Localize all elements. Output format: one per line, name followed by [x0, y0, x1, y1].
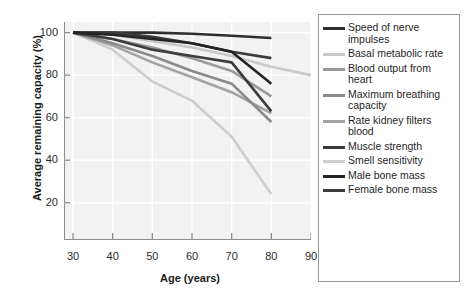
legend-label: Rate kidney filters blood	[348, 115, 455, 138]
legend-label: Male bone mass	[348, 170, 425, 182]
legend-swatch-icon	[323, 189, 345, 192]
legend-label: Blood output from heart	[348, 63, 455, 86]
legend-label: Female bone mass	[348, 184, 437, 196]
legend-item[interactable]: Blood output from heart	[323, 63, 455, 86]
legend-label: Speed of nerve impulses	[348, 22, 455, 45]
legend-swatch-icon	[323, 175, 345, 178]
legend-swatch-icon	[323, 68, 345, 71]
legend-label: Muscle strength	[348, 141, 422, 153]
legend-swatch-icon	[323, 27, 345, 30]
legend-label: Maximum breathing capacity	[348, 89, 455, 112]
x-tick-label: 80	[256, 250, 286, 262]
x-tick-label: 50	[137, 250, 167, 262]
y-tick-label: 100	[30, 26, 58, 38]
legend-label: Basal metabolic rate	[348, 48, 443, 60]
series-line	[73, 33, 271, 195]
legend: Speed of nerve impulsesBasal metabolic r…	[318, 14, 460, 282]
x-tick-label: 40	[98, 250, 128, 262]
y-tick-label: 80	[30, 68, 58, 80]
legend-item[interactable]: Muscle strength	[323, 141, 455, 153]
legend-item[interactable]: Speed of nerve impulses	[323, 22, 455, 45]
plot-area	[64, 22, 311, 240]
x-axis-title: Age (years)	[60, 272, 320, 284]
y-tick-label: 60	[30, 111, 58, 123]
legend-item[interactable]: Rate kidney filters blood	[323, 115, 455, 138]
legend-swatch-icon	[323, 160, 345, 163]
y-tick-label: 20	[30, 196, 58, 208]
aging-capacity-line-chart: Average remaining capacity (%) 100806040…	[0, 0, 466, 299]
legend-item[interactable]: Smell sensitivity	[323, 155, 455, 167]
legend-item[interactable]: Basal metabolic rate	[323, 48, 455, 60]
legend-swatch-icon	[323, 94, 345, 97]
legend-item[interactable]: Female bone mass	[323, 184, 455, 196]
y-axis-ticks: 10080604020	[28, 0, 58, 299]
legend-swatch-icon	[323, 120, 345, 123]
legend-item[interactable]: Male bone mass	[323, 170, 455, 182]
x-tick-label: 70	[217, 250, 247, 262]
x-tick-label: 30	[58, 250, 88, 262]
legend-label: Smell sensitivity	[348, 155, 423, 167]
y-tick-label: 40	[30, 153, 58, 165]
legend-item[interactable]: Maximum breathing capacity	[323, 89, 455, 112]
legend-swatch-icon	[323, 53, 345, 56]
legend-swatch-icon	[323, 146, 345, 149]
x-tick-label: 60	[177, 250, 207, 262]
